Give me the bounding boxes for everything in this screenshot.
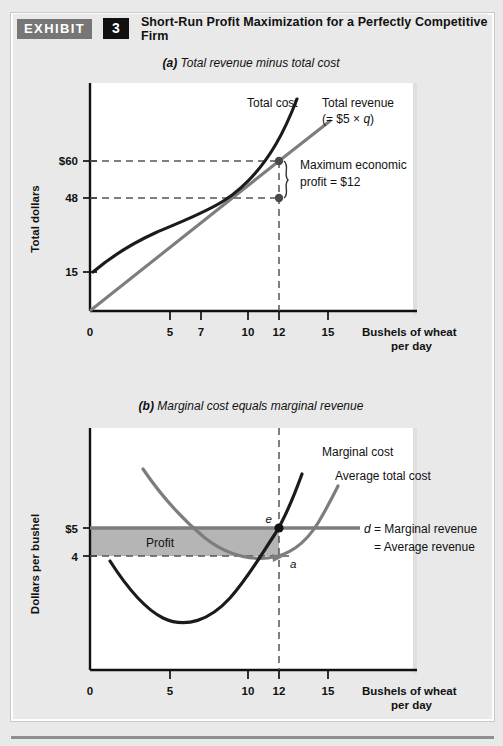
panel-b-marginal-cost-label: Marginal cost xyxy=(322,445,394,459)
panel-b-ytick-label-4: 4 xyxy=(72,551,79,563)
tr-formula-post: ) xyxy=(370,112,374,126)
panel-b-xtick-label-12: 12 xyxy=(273,685,286,697)
panel-b-y-axis-label: Dollars per bushel xyxy=(29,514,41,614)
panel-b: (b) Marginal cost equals marginal revenu… xyxy=(0,386,503,716)
panel-a-total-revenue-formula: (= $5 × q) xyxy=(322,112,374,126)
panel-a-ytick-label-48: 48 xyxy=(65,192,78,204)
panel-b-demand-label-line1: d = Marginal revenue xyxy=(364,522,477,536)
panel-b-point-e xyxy=(274,523,283,532)
panel-a-point-cost-48 xyxy=(275,194,283,202)
exhibit-number: 3 xyxy=(103,18,129,39)
panel-b-xtick-label-10: 10 xyxy=(242,685,255,697)
panel-a-y-axis-label: Total dollars xyxy=(29,185,41,253)
panel-a-ytick-label-15: 15 xyxy=(65,266,78,278)
panel-b-profit-area xyxy=(90,528,279,556)
panel-a-max-profit-line2: profit = $12 xyxy=(300,175,361,189)
panel-b-x-axis-label-line1: Bushels of wheat xyxy=(362,685,457,697)
panel-a-x-axis-label-line1: Bushels of wheat xyxy=(362,326,457,338)
panel-b-xtick-label-5: 5 xyxy=(167,685,174,697)
panel-a-xtick-label-12: 12 xyxy=(273,326,286,338)
tr-formula-pre: (= $5 xyxy=(322,112,353,126)
panel-a-max-profit-line1: Maximum economic xyxy=(300,158,407,172)
tr-formula-times: × xyxy=(353,112,363,126)
panel-a-xtick-label-5: 5 xyxy=(167,326,174,338)
panel-b-demand-text: = Marginal revenue xyxy=(371,522,478,536)
panel-b-x-axis-label-line2: per day xyxy=(391,699,433,711)
panel-b-average-total-cost-label: Average total cost xyxy=(335,469,432,483)
panel-b-xtick-label-15: 15 xyxy=(322,685,335,697)
panel-a-xtick-label-15: 15 xyxy=(322,326,335,338)
panel-a-title-prefix: (a) xyxy=(163,56,178,70)
panel-b-label-a: a xyxy=(290,558,296,570)
exhibit-header: EXHIBIT 3 Short-Run Profit Maximization … xyxy=(13,14,488,43)
page-bottom-rule xyxy=(11,736,494,739)
panel-a-title-group: (a) Total revenue minus total cost xyxy=(163,56,341,70)
exhibit-label: EXHIBIT xyxy=(17,19,92,39)
panel-a-xtick-label-7: 7 xyxy=(198,326,204,338)
panel-a: (a) Total revenue minus total cost xyxy=(0,44,503,384)
panel-b-profit-label: Profit xyxy=(146,536,175,550)
panel-b-ytick-label-5: $5 xyxy=(65,523,78,535)
panel-a-xtick-label-10: 10 xyxy=(242,326,255,338)
panel-a-total-cost-label: Total cost xyxy=(247,96,298,110)
panel-a-total-revenue-label: Total revenue xyxy=(322,96,394,110)
panel-a-ytick-label-60: $60 xyxy=(59,155,78,167)
panel-a-x-axis-label-line2: per day xyxy=(391,340,433,352)
panel-a-card-shadow-right xyxy=(413,83,417,315)
panel-a-title-text: Total revenue minus total cost xyxy=(177,56,340,70)
panel-b-title-text: Marginal cost equals marginal revenue xyxy=(154,399,364,413)
panel-b-demand-label-line2: = Average revenue xyxy=(374,540,475,554)
panel-a-xtick-label-0: 0 xyxy=(87,326,93,338)
exhibit-title: Short-Run Profit Maximization for a Perf… xyxy=(141,15,488,43)
panel-b-label-e: e xyxy=(266,513,272,525)
exhibit-page: EXHIBIT 3 Short-Run Profit Maximization … xyxy=(0,0,503,746)
panel-a-point-revenue-60 xyxy=(275,157,283,165)
panel-b-title-group: (b) Marginal cost equals marginal revenu… xyxy=(139,399,364,413)
panel-b-xtick-label-0: 0 xyxy=(87,685,93,697)
panel-b-title-prefix: (b) xyxy=(139,399,154,413)
